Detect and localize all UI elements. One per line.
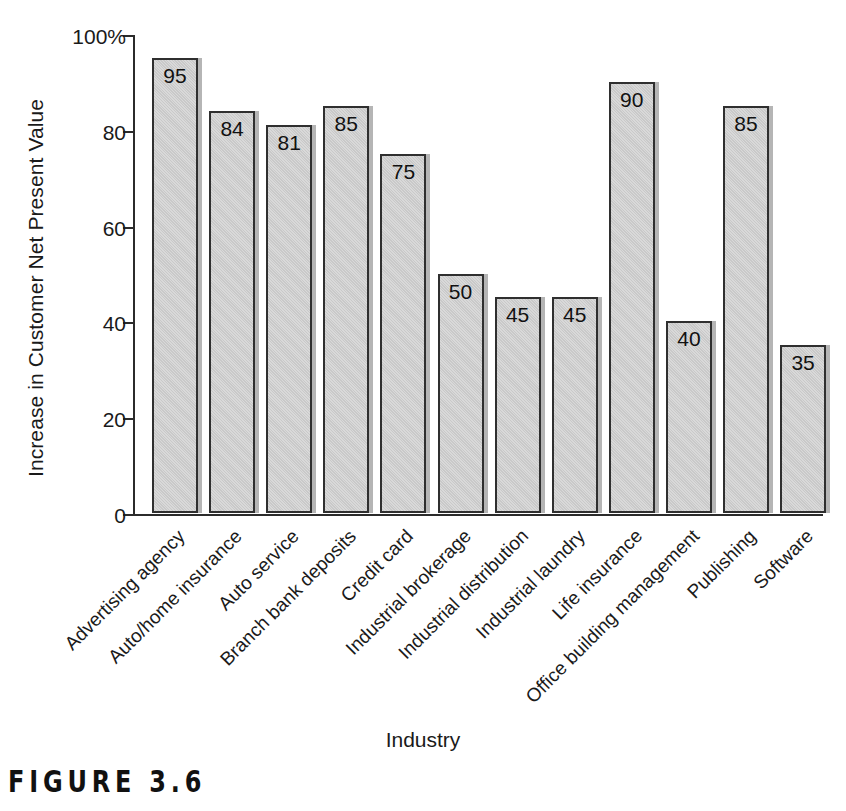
bar: 45 — [495, 297, 541, 513]
bar-value-label: 45 — [554, 304, 596, 325]
bar: 35 — [780, 345, 826, 513]
bar-value-label: 35 — [782, 352, 824, 373]
bar-value-label: 84 — [211, 118, 253, 139]
bar: 90 — [609, 82, 655, 513]
y-tick-label: 20 — [103, 409, 126, 430]
y-tick-label: 0 — [114, 505, 126, 526]
bar-value-label: 75 — [382, 161, 424, 182]
y-tick-label: 80 — [103, 121, 126, 142]
bar: 85 — [323, 106, 369, 513]
y-tick-label: 40 — [103, 313, 126, 334]
figure-caption: FIGURE 3.6 — [8, 764, 206, 799]
bar: 84 — [209, 111, 255, 513]
bar: 50 — [438, 274, 484, 514]
y-tick-label: 100% — [72, 26, 126, 47]
bar: 81 — [266, 125, 312, 513]
y-axis-title: Increase in Customer Net Present Value — [14, 28, 58, 548]
bar-value-label: 95 — [154, 65, 196, 86]
bar: 40 — [666, 321, 712, 513]
x-axis-title: Industry — [0, 728, 846, 752]
plot-area: 020406080100% 958481857550454590408535 — [133, 35, 823, 515]
y-tick-label: 60 — [103, 217, 126, 238]
bar-value-label: 81 — [268, 132, 310, 153]
bar: 95 — [152, 58, 198, 513]
x-axis-line — [133, 514, 823, 516]
bar-value-label: 45 — [497, 304, 539, 325]
bar-value-label: 90 — [611, 89, 653, 110]
bar-value-label: 85 — [325, 113, 367, 134]
bar-value-label: 50 — [440, 281, 482, 302]
bar-value-label: 40 — [668, 328, 710, 349]
bar: 85 — [723, 106, 769, 513]
x-category-label-text: Software — [750, 526, 816, 592]
figure-container: Increase in Customer Net Present Value 0… — [0, 0, 846, 811]
bar: 45 — [552, 297, 598, 513]
y-axis-line — [133, 35, 135, 516]
bar: 75 — [380, 154, 426, 513]
bar-value-label: 85 — [725, 113, 767, 134]
